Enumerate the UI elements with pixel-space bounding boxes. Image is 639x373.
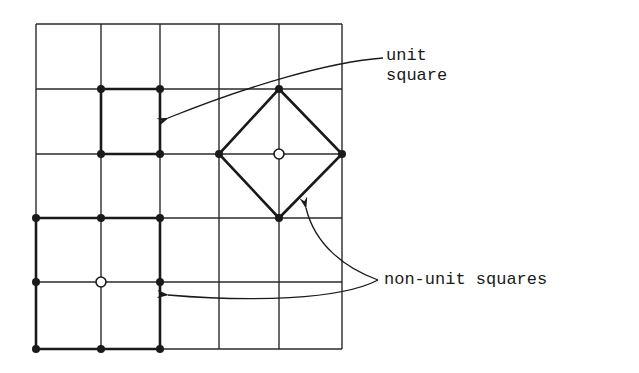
lattice-point-dot bbox=[275, 214, 283, 222]
unit-square bbox=[101, 89, 160, 154]
lattice-point-dot bbox=[156, 85, 164, 93]
lattice-point-dot bbox=[156, 214, 164, 222]
unit-square-label-line1: unit bbox=[386, 46, 447, 66]
lattice-point-dot bbox=[156, 345, 164, 353]
lattice-point-dot bbox=[215, 150, 223, 158]
non-unit-squares-label: non-unit squares bbox=[384, 270, 547, 290]
lattice-point-dot bbox=[97, 345, 105, 353]
lattice-point-dot bbox=[97, 214, 105, 222]
lattice-point-dot bbox=[275, 85, 283, 93]
center-open-dot bbox=[96, 277, 106, 287]
lattice-point-dot bbox=[156, 150, 164, 158]
lattice-point-dot bbox=[156, 278, 164, 286]
unit-square-label: unit square bbox=[386, 46, 447, 86]
lattice-point-dot bbox=[32, 214, 40, 222]
lattice-point-dot bbox=[97, 85, 105, 93]
grid-diagram bbox=[0, 0, 639, 373]
lattice-point-dot bbox=[338, 150, 346, 158]
center-open-dot bbox=[274, 149, 284, 159]
lattice-point-dot bbox=[32, 278, 40, 286]
lattice-point-dot bbox=[32, 345, 40, 353]
non-unit-arrow-big bbox=[168, 280, 378, 299]
grid-lines bbox=[36, 24, 342, 349]
lattice-point-dot bbox=[97, 150, 105, 158]
unit-square-label-line2: square bbox=[386, 66, 447, 86]
